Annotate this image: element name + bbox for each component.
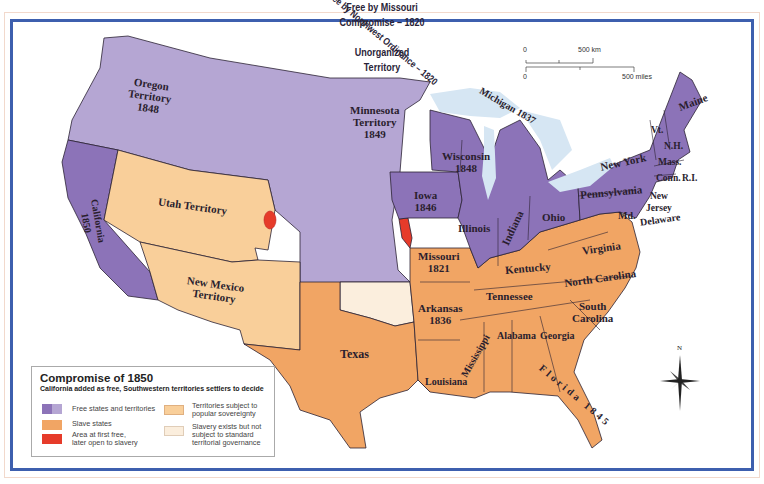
compass-north-label: N	[677, 344, 682, 352]
label-missouri-compromise: Free by MissouriCompromise – 1820	[69, 0, 695, 30]
label-georgia: Georgia	[540, 330, 574, 342]
label-unorganized: UnorganizedTerritory	[69, 45, 695, 75]
label-vermont: Vt.	[651, 124, 663, 136]
legend-swatch-slave	[42, 420, 62, 430]
label-texas: Texas	[340, 348, 369, 360]
legend: Compromise of 1850 California added as f…	[31, 366, 275, 457]
legend-label-opened: Area at first free,later open to slavery	[72, 431, 138, 447]
label-connecticut: Conn.	[656, 172, 681, 184]
legend-swatch-unorganized	[164, 426, 184, 436]
compass-rose	[660, 355, 700, 411]
legend-swatch-opened	[42, 434, 62, 444]
legend-label-free: Free states and territories	[72, 405, 155, 413]
legend-swatch-popular-sovereignty	[164, 405, 184, 415]
label-arkansas: Arkansas1836	[418, 302, 463, 326]
label-new-hampshire: N.H.	[664, 140, 683, 152]
legend-title: Compromise of 1850	[40, 372, 266, 384]
label-maryland: Md.	[618, 210, 636, 222]
label-iowa: Iowa1846	[414, 189, 437, 213]
label-massachusetts: Mass.	[658, 156, 682, 168]
label-south-carolina: SouthCarolina	[572, 300, 613, 324]
label-ohio: Ohio	[542, 211, 565, 223]
label-new-jersey: NewJersey	[646, 190, 672, 214]
label-minnesota: MinnesotaTerritory1849	[350, 104, 400, 140]
label-missouri: Missouri1821	[418, 250, 460, 274]
legend-label-popular-sovereignty: Territories subject topopular sovereignt…	[192, 402, 257, 418]
label-rhode-island: R.I.	[682, 172, 697, 184]
area-opened-east[interactable]	[399, 218, 412, 248]
legend-subtitle: California added as free, Southwestern t…	[40, 384, 266, 393]
label-illinois: Illinois	[458, 222, 490, 234]
legend-label-unorganized: Slavery exists but notsubject to standar…	[192, 423, 261, 447]
legend-swatch-free	[42, 404, 62, 414]
label-wisconsin: Wisconsin1848	[442, 150, 490, 174]
label-louisiana: Louisiana	[425, 376, 467, 388]
legend-label-slave: Slave states	[72, 420, 112, 428]
label-tennessee: Tennessee	[486, 290, 533, 302]
label-oregon: OregonTerritory1848	[126, 75, 174, 117]
label-alabama: Alabama	[497, 330, 536, 342]
area-opened-west[interactable]	[264, 211, 276, 229]
